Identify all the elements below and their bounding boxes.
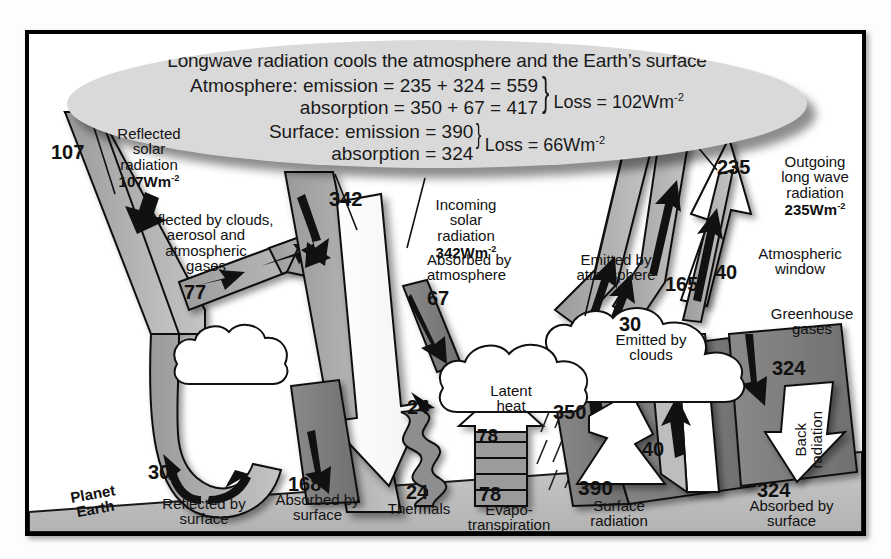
value-surface-radiation-up: 350 xyxy=(553,402,586,422)
atmosphere-emission-label: Atmosphere: emission = xyxy=(190,75,394,96)
atmosphere-emission-value: 235 + 324 = 559 xyxy=(400,75,538,96)
label-reflected-solar-value: 107Wm-2 xyxy=(89,174,209,189)
label-outgoing-longwave-value: 235Wm-2 xyxy=(755,202,866,217)
value-thermals-bottom: 24 xyxy=(406,482,428,502)
label-emitted-by-clouds: Emitted by clouds xyxy=(591,332,711,363)
surface-brace: } xyxy=(476,121,482,146)
diagram-canvas: Longwave radiation cools the atmosphere … xyxy=(0,0,891,559)
atmosphere-absorption-value: 350 + 67 = 417 xyxy=(410,97,538,118)
label-back-radiation: Back radiation xyxy=(793,395,825,485)
value-outgoing-longwave-top: 235 xyxy=(717,157,750,177)
label-absorbed-by-surface-left: Absorbed by surface xyxy=(255,492,380,523)
label-atmospheric-window: Atmospheric window xyxy=(741,246,859,277)
label-surface-radiation: Surface radiation xyxy=(559,498,679,529)
label-emitted-by-atmosphere: Emitted by atmosphere xyxy=(561,252,671,283)
label-outgoing-longwave: Outgoing long wave radiation xyxy=(755,154,866,200)
surface-loss: Loss = 66Wm xyxy=(485,135,596,155)
summary-line-1: Longwave radiation cools the atmosphere … xyxy=(67,50,807,72)
value-thermals-top: 24 xyxy=(407,397,429,417)
label-reflected-by-clouds: Reflected by clouds, aerosol and atmosph… xyxy=(111,212,301,273)
value-reflected-by-surface: 30 xyxy=(148,462,170,482)
label-greenhouse-gases: Greenhouse gases xyxy=(753,306,866,337)
surface-absorption-value: 324 xyxy=(442,143,474,164)
label-absorbed-by-atmosphere: Absorbed by atmosphere xyxy=(427,252,547,283)
atmosphere-loss-exponent: -2 xyxy=(674,91,684,103)
atmosphere-loss: Loss = 102Wm xyxy=(553,92,674,112)
value-greenhouse-back: 324 xyxy=(772,358,805,378)
label-absorbed-by-surface-right: Absorbed by surface xyxy=(729,498,854,529)
value-surface-radiation: 390 xyxy=(578,477,613,498)
value-emitted-by-atmosphere: 165 xyxy=(665,274,698,294)
label-reflected-solar: Reflected solar radiation xyxy=(89,126,209,172)
atmosphere-brace: } xyxy=(542,75,549,110)
surface-absorption-label: absorption = xyxy=(331,143,436,164)
value-reflected-by-clouds: 77 xyxy=(184,282,206,302)
surface-emission-value: 390 xyxy=(442,121,474,142)
value-reflected-solar-top: 107 xyxy=(51,142,84,162)
value-latent-arrow: 78 xyxy=(477,426,498,445)
atmosphere-absorption-label: absorption = xyxy=(300,97,405,118)
label-evapotranspiration: Evapo- transpiration xyxy=(439,502,579,533)
value-atmospheric-window-mid: 40 xyxy=(642,439,664,459)
label-reflected-by-surface: Reflected by surface xyxy=(139,496,269,527)
surface-loss-exponent: -2 xyxy=(595,134,605,146)
surface-emission-label: Surface: emission = xyxy=(269,121,436,142)
value-absorbed-by-atmosphere: 67 xyxy=(427,288,449,308)
value-incoming-solar: 342 xyxy=(329,189,362,209)
value-atmospheric-window-top: 40 xyxy=(715,262,737,282)
label-incoming-solar: Incoming solar radiation xyxy=(411,197,521,243)
label-latent-heat: Latent heat xyxy=(461,383,561,414)
diagram-frame: Longwave radiation cools the atmosphere … xyxy=(25,30,866,536)
